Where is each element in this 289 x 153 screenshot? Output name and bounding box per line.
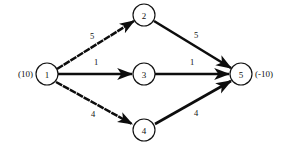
edge-weight-1-2: 5 [90,31,94,41]
node-1[interactable]: 1 [36,63,58,85]
edge-weight-4-5: 4 [194,108,199,118]
edge-weight-1-4: 4 [91,109,96,119]
edge-weight-1-3: 1 [94,57,98,67]
supply-label-node-5: (-10) [255,69,273,79]
node-3[interactable]: 3 [133,63,155,85]
node-4[interactable]: 4 [133,119,155,141]
node-3-label: 3 [142,70,147,80]
network-diagram-canvas: 5 5 1 1 4 4 1 2 3 4 [0,0,289,153]
node-4-label: 4 [142,126,147,136]
node-2[interactable]: 2 [133,4,155,26]
nodes-group: 1 2 3 4 5 [36,4,252,141]
network-graph: 5 5 1 1 4 4 1 2 3 4 [0,0,289,153]
supply-label-node-1: (10) [18,69,33,79]
edge-weight-2-5: 5 [194,30,198,40]
node-2-label: 2 [142,11,147,21]
node-5-label: 5 [239,70,244,80]
edge-weight-3-5: 1 [190,57,194,67]
node-1-label: 1 [45,70,50,80]
node-5[interactable]: 5 [230,63,252,85]
